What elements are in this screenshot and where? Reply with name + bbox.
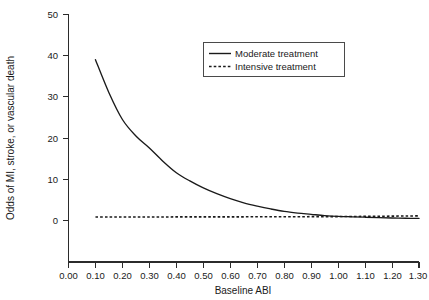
series-line-intensive-treatment: [95, 216, 419, 217]
y-tick-label-20: 20: [47, 133, 58, 144]
x-tick-label-10: 1.00: [329, 270, 348, 281]
y-tick-label-50: 50: [47, 9, 58, 20]
line-chart: 0 10 20 30 40 50 0.00 0.10 0.20 0.30 0.4…: [0, 0, 429, 300]
x-axis-ticks: 0.00 0.10 0.20 0.30 0.40 0.50 0.60 0.70 …: [59, 262, 427, 281]
legend-label-intensive-treatment: Intensive treatment: [235, 61, 316, 72]
y-tick-label-0: 0: [53, 215, 58, 226]
y-tick-label-40: 40: [47, 50, 58, 61]
x-tick-label-2: 0.20: [113, 270, 132, 281]
x-tick-label-9: 0.90: [302, 270, 321, 281]
y-axis-ticks: 0 10 20 30 40 50: [47, 9, 68, 226]
x-tick-label-8: 0.80: [275, 270, 294, 281]
legend-label-moderate-treatment: Moderate treatment: [235, 48, 318, 59]
x-tick-label-3: 0.30: [140, 270, 159, 281]
x-tick-label-5: 0.50: [194, 270, 213, 281]
chart-figure: 0 10 20 30 40 50 0.00 0.10 0.20 0.30 0.4…: [0, 0, 429, 300]
series-line-moderate-treatment: [95, 60, 419, 219]
y-axis-title: Odds of MI, stroke, or vascular death: [5, 56, 16, 220]
y-tick-label-10: 10: [47, 174, 58, 185]
x-tick-label-4: 0.40: [167, 270, 186, 281]
x-tick-label-1: 0.10: [86, 270, 105, 281]
x-axis-title: Baseline ABI: [215, 285, 272, 296]
x-tick-label-7: 0.70: [248, 270, 267, 281]
x-tick-label-13: 1.30: [409, 270, 428, 281]
x-tick-label-11: 1.10: [356, 270, 375, 281]
x-tick-label-12: 1.20: [383, 270, 402, 281]
chart-legend: Moderate treatment Intensive treatment: [204, 43, 345, 77]
x-tick-label-6: 0.60: [221, 270, 240, 281]
x-tick-label-0: 0.00: [59, 270, 78, 281]
y-tick-label-30: 30: [47, 91, 58, 102]
